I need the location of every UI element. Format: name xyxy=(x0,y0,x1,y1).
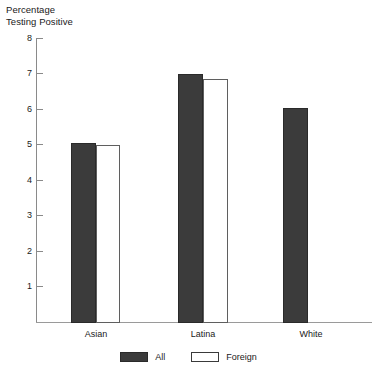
y-axis-tick-6-mark xyxy=(37,109,43,110)
y-axis-tick-label-6: 6 xyxy=(12,105,32,114)
legend-swatch-foreign-icon xyxy=(191,352,219,362)
bar-chart: Percentage Testing Positive 8 7 6 5 4 3 … xyxy=(0,0,377,375)
y-axis-tick-label-4: 4 xyxy=(12,176,32,185)
x-axis-label-white: White xyxy=(281,329,341,339)
y-axis-tick-8-mark xyxy=(37,38,43,39)
y-axis-tick-label-5: 5 xyxy=(12,140,32,149)
y-axis-tick-label-8: 8 xyxy=(12,34,32,43)
y-axis-tick-label-3: 3 xyxy=(12,211,32,220)
legend-swatch-all-icon xyxy=(120,352,148,362)
legend-item-all: All xyxy=(120,352,165,362)
y-axis-tick-label-1: 1 xyxy=(12,282,32,291)
legend-item-foreign: Foreign xyxy=(191,352,257,362)
y-axis-tick-label-2: 2 xyxy=(12,247,32,256)
legend-label-all: All xyxy=(155,352,165,362)
bar-latina-all xyxy=(178,74,203,323)
y-axis-tick-7-mark xyxy=(37,73,43,74)
y-axis-tick-2-mark xyxy=(37,251,43,252)
bar-latina-foreign xyxy=(203,79,228,323)
chart-legend: All Foreign xyxy=(0,352,377,362)
y-axis-tick-1-mark xyxy=(37,286,43,287)
y-axis-tick-5-mark xyxy=(37,144,43,145)
y-axis-tick-label-7: 7 xyxy=(12,69,32,78)
x-axis-label-asian: Asian xyxy=(66,329,126,339)
y-axis-tick-4-mark xyxy=(37,180,43,181)
bar-asian-all xyxy=(71,143,96,323)
legend-label-foreign: Foreign xyxy=(226,352,257,362)
plot-area: 8 7 6 5 4 3 2 1 Asian Latina White xyxy=(0,0,377,375)
bar-asian-foreign xyxy=(96,145,120,323)
x-axis-label-latina: Latina xyxy=(173,329,233,339)
y-axis-tick-3-mark xyxy=(37,215,43,216)
bar-white-all xyxy=(283,108,308,323)
